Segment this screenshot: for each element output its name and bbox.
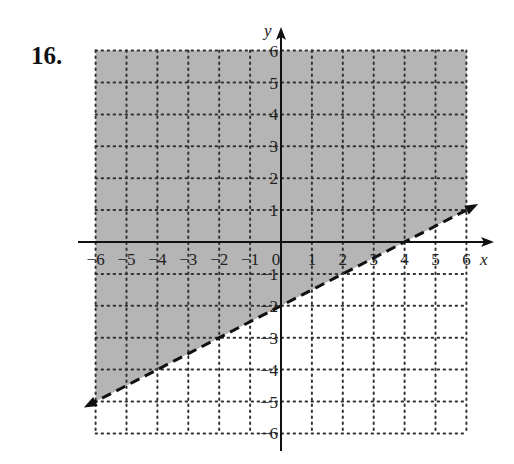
x-tick-label: 5 (431, 250, 440, 269)
x-tick-label: −1 (241, 250, 259, 269)
x-tick-label: 2 (339, 250, 348, 269)
x-tick-label: 6 (462, 250, 471, 269)
x-axis-label: x (479, 250, 488, 269)
y-tick-label: 6 (270, 42, 279, 61)
y-tick-label: 2 (270, 169, 279, 188)
y-tick-label: 1 (270, 201, 279, 220)
x-tick-label: −5 (117, 250, 135, 269)
y-tick-label: −1 (260, 265, 278, 284)
y-tick-label: 4 (270, 105, 279, 124)
x-tick-label: −6 (87, 250, 105, 269)
y-tick-label: −4 (260, 361, 279, 380)
y-tick-label: 5 (270, 74, 279, 93)
x-tick-label: 1 (308, 250, 317, 269)
y-tick-label: 3 (270, 137, 279, 156)
inequality-graph: −6−5−4−3−2−10123456−6−5−4−3−2−1123456xy (0, 0, 514, 464)
y-tick-label: −5 (260, 393, 278, 412)
y-tick-label: −3 (260, 329, 278, 348)
y-tick-label: −6 (260, 424, 278, 443)
x-tick-label: −2 (210, 250, 228, 269)
x-tick-label: −4 (148, 250, 167, 269)
y-tick-label: −2 (260, 297, 278, 316)
y-axis-label: y (262, 21, 272, 40)
x-tick-label: 3 (369, 250, 378, 269)
x-tick-label: −3 (179, 250, 197, 269)
x-tick-label: 4 (400, 250, 409, 269)
